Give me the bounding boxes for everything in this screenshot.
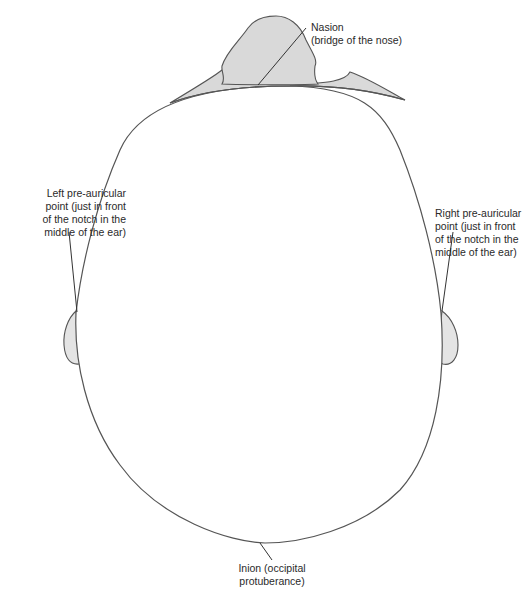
left-preauricular-line2: point (just in front bbox=[14, 200, 126, 213]
left-preauricular-line4: middle of the ear) bbox=[14, 226, 126, 239]
nose-shape bbox=[222, 16, 318, 85]
head-diagram bbox=[0, 0, 526, 597]
nasion-label-line1: Nasion bbox=[311, 21, 402, 34]
inion-label: Inion (occipital protuberance) bbox=[232, 562, 312, 588]
left-preauricular-line3: of the notch in the bbox=[14, 213, 126, 226]
inion-label-line2: protuberance) bbox=[232, 575, 312, 588]
left-preauricular-leader-line bbox=[69, 232, 77, 312]
right-preauricular-line1: Right pre-auricular bbox=[435, 207, 521, 220]
nasion-label: Nasion (bridge of the nose) bbox=[311, 21, 402, 47]
right-preauricular-line2: point (just in front bbox=[435, 220, 521, 233]
left-preauricular-label: Left pre-auricular point (just in front … bbox=[14, 187, 126, 239]
inion-label-line1: Inion (occipital bbox=[232, 562, 312, 575]
right-preauricular-label: Right pre-auricular point (just in front… bbox=[435, 207, 521, 259]
right-preauricular-line3: of the notch in the bbox=[435, 233, 521, 246]
head-outline bbox=[76, 86, 442, 543]
left-preauricular-line1: Left pre-auricular bbox=[14, 187, 126, 200]
inion-leader-line bbox=[260, 543, 272, 560]
nasion-label-line2: (bridge of the nose) bbox=[311, 34, 402, 47]
right-preauricular-line4: middle of the ear) bbox=[435, 246, 521, 259]
